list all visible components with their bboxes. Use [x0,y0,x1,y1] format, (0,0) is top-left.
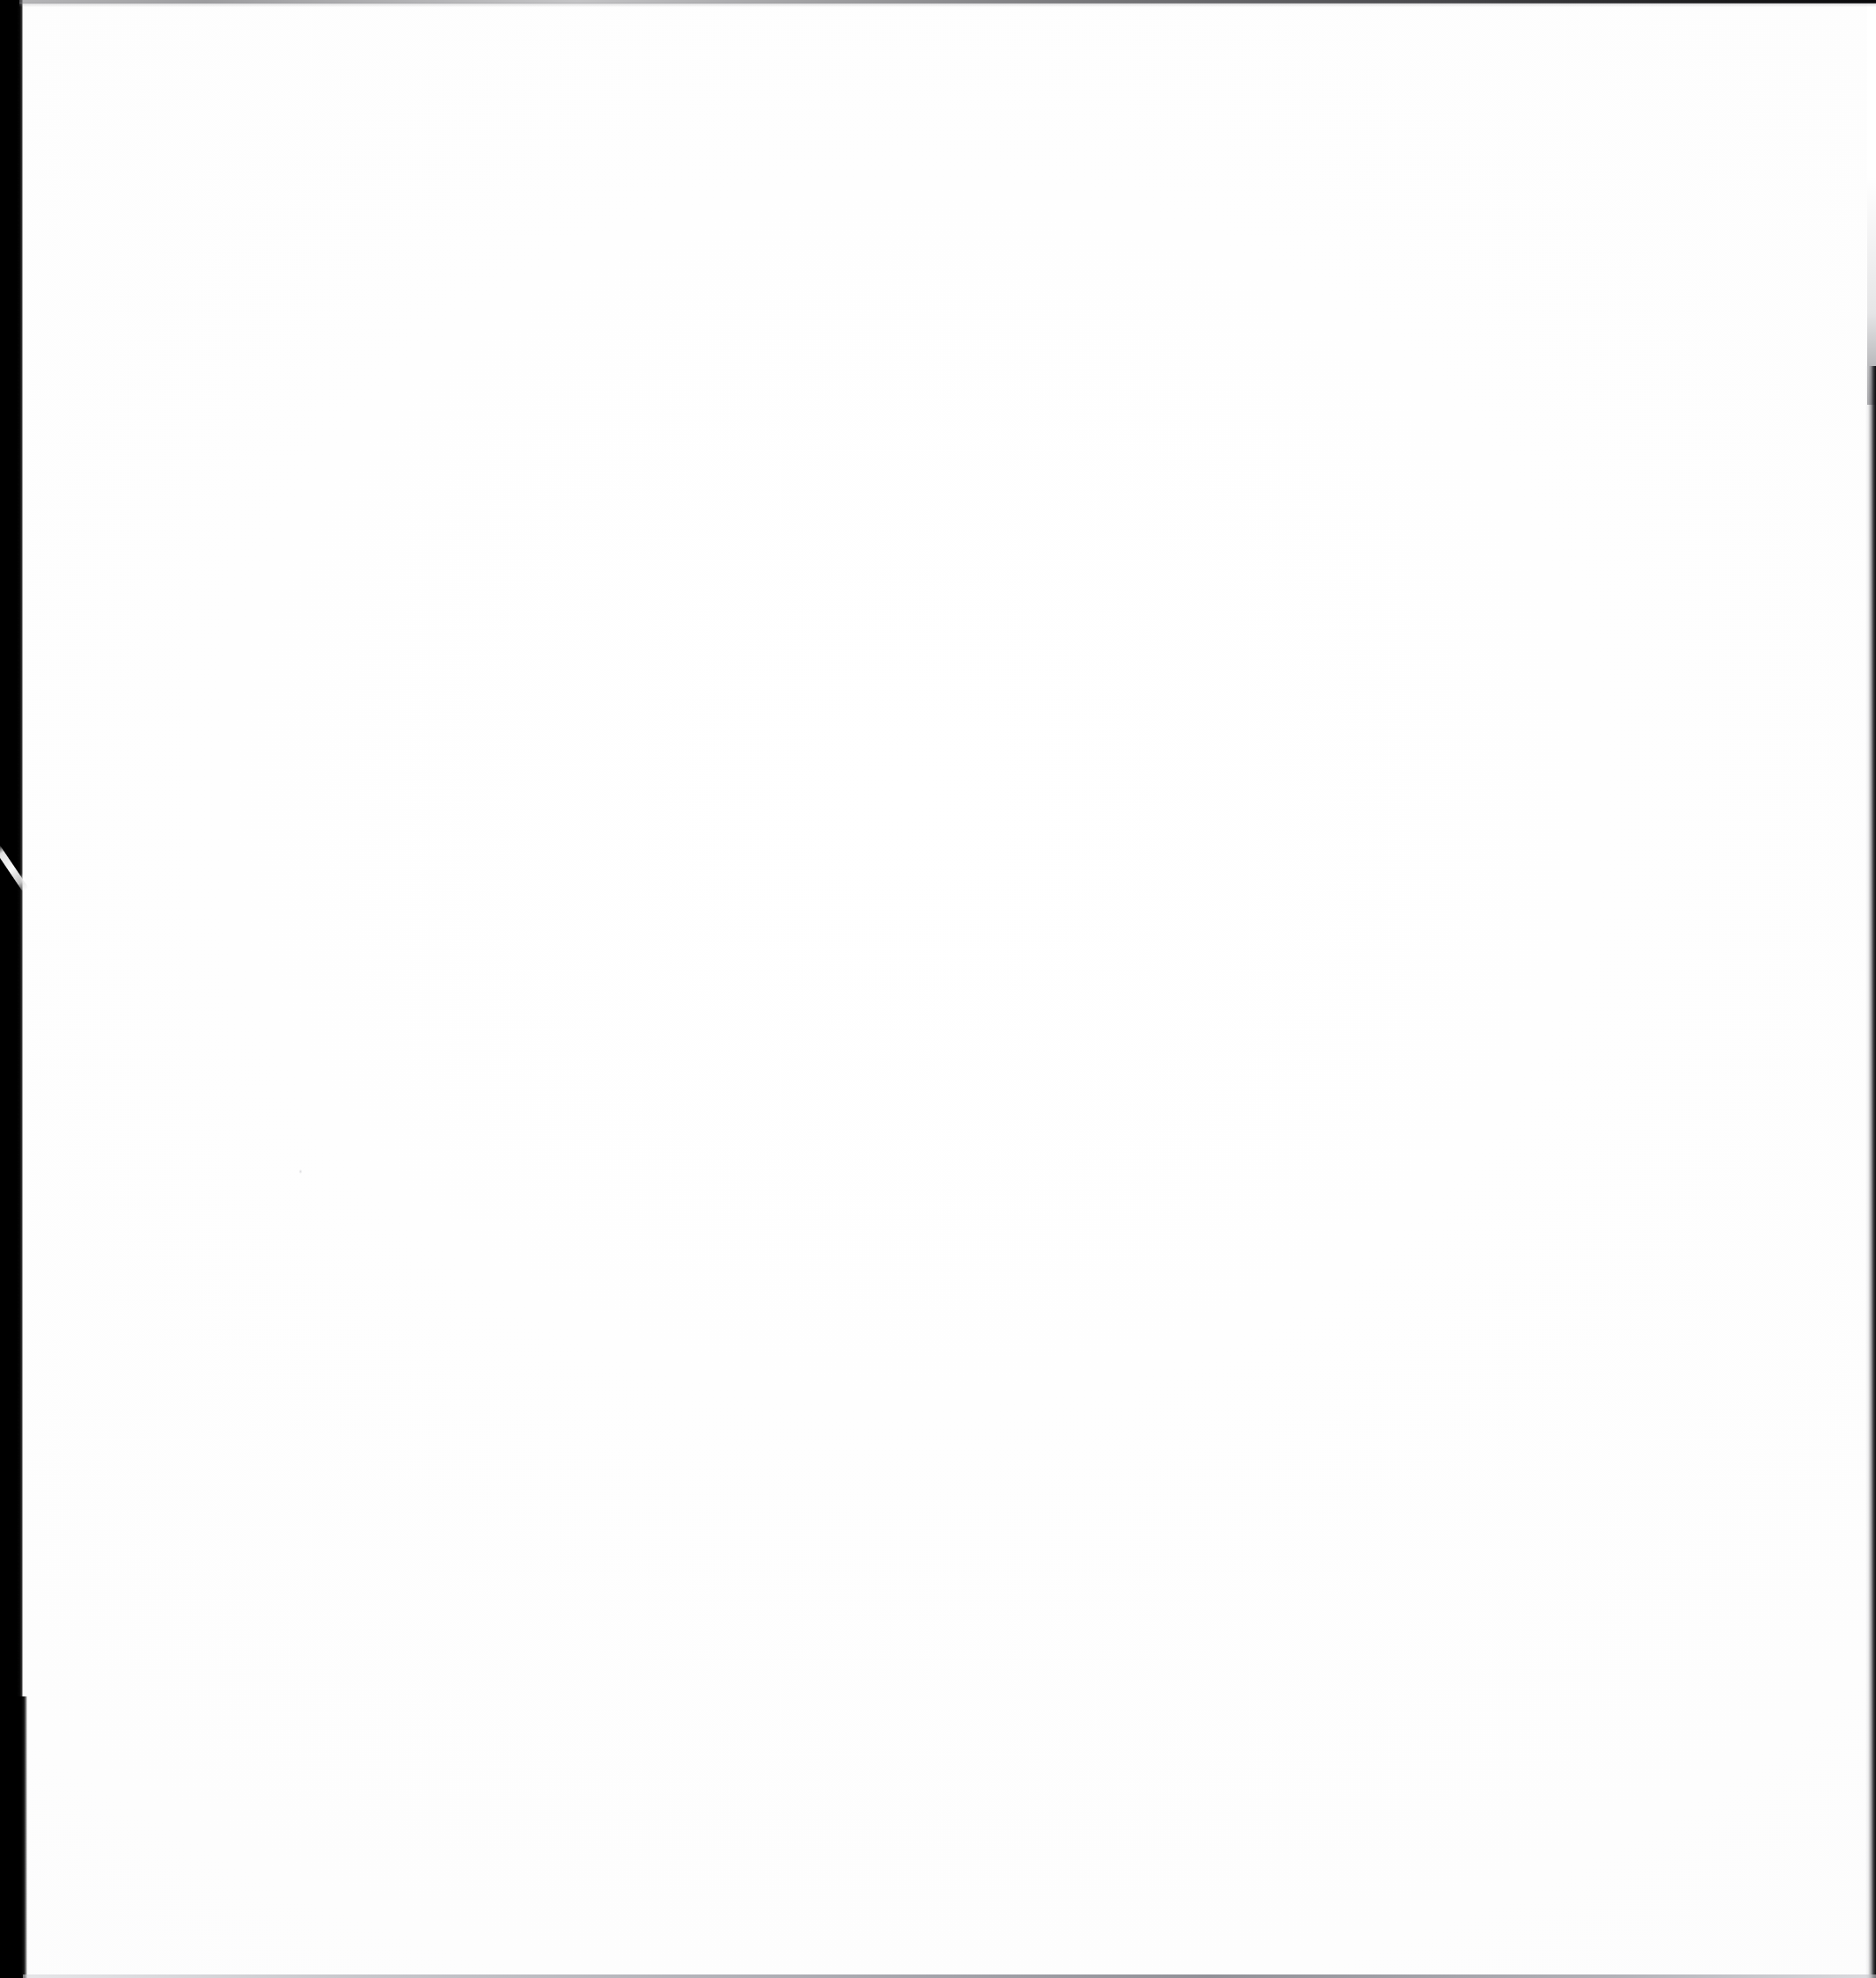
paper-speck-artifact [298,1168,303,1175]
right-scan-boundary-line [1865,366,1876,1978]
top-scan-boundary-softening [19,3,1876,7]
left-binding-shadow-flare [0,1696,27,1978]
left-binding-shadow [0,0,23,1978]
white-diagonal-scratch-tail [19,873,33,884]
bottom-scan-boundary-line [23,1974,1876,1978]
paper-surface [23,4,1867,1976]
scanned-page-canvas [0,0,1876,1978]
paper-tone-overlay [23,4,1867,1976]
